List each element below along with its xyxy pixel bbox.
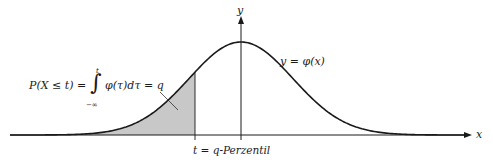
formula-lhs: P(X ≤ t) = xyxy=(29,80,86,91)
integral-sign: ∫ xyxy=(90,72,101,94)
integral-lower-limit: −∞ xyxy=(86,102,98,109)
y-axis-label: y xyxy=(237,5,243,16)
quantile-label: t = q-Perzentil xyxy=(193,145,270,156)
formula-integrand: φ(τ)dτ = q xyxy=(105,80,164,91)
curve-label: y = φ(x) xyxy=(280,56,325,67)
x-axis-label: x xyxy=(476,129,482,140)
integral-upper-limit: t xyxy=(96,68,99,75)
y-axis-arrow-icon xyxy=(238,16,244,24)
